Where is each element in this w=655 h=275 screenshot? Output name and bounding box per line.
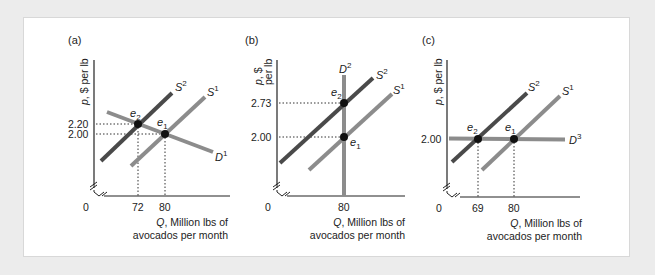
panel-a-e1-label: e1	[157, 116, 168, 131]
panel-b-x-axis-label-line2: avocados per month	[310, 229, 405, 241]
panel-c-s2-label: S2	[528, 79, 540, 93]
panel-c-equilibrium-e1	[510, 135, 518, 143]
panel-b-equilibrium-e1	[340, 133, 348, 141]
panel-c: (c) p, $ per lb e2 e1 S2 S1 D3 2.00 0 69…	[421, 34, 582, 242]
panel-c-equilibrium-e2	[474, 135, 482, 143]
panel-c-e2-label: e2	[467, 121, 478, 136]
panel-c-y-tick-2-00: 2.00	[421, 133, 442, 145]
panel-b-x-axis-label-line1: Q, Million lbs of	[333, 216, 405, 228]
panel-a-y-axis-label: pp, $ per lb, $ per lb	[78, 58, 90, 106]
panel-b-s2-label: S2	[376, 67, 388, 81]
panel-c-label: (c)	[422, 34, 435, 46]
panel-c-demand-curve	[449, 139, 565, 140]
panel-b-y-tick-2-00: 2.00	[251, 131, 272, 143]
panel-a-s1-label: S1	[207, 84, 219, 98]
panel-b-s1-label: S1	[393, 82, 405, 96]
panel-a-x-tick-72: 72	[132, 201, 144, 213]
panel-c-supply-s2-curve	[452, 93, 527, 162]
panel-a-x-axis-label-line2: avocados per month	[133, 229, 228, 241]
panel-a: (a) pp, $ per lb, $ per lb e2 e1 S2 S1 D…	[68, 34, 230, 241]
panel-a-s2-label: S2	[175, 79, 187, 93]
panel-c-x-tick-80: 80	[508, 202, 520, 214]
panel-b-e1-label: e1	[350, 136, 361, 151]
panel-a-d1-label: D1	[215, 149, 228, 163]
panel-b-supply-s1-curve	[309, 94, 392, 170]
panel-b-y-axis-label-line2: per lb	[262, 59, 274, 85]
panel-b-e2-label: e2	[331, 86, 342, 101]
panel-b-origin-label: 0	[265, 201, 271, 213]
panel-a-y-tick-2-00: 2.00	[68, 128, 89, 140]
panel-c-supply-s1-curve	[482, 96, 560, 170]
panel-a-equilibrium-e1	[161, 130, 169, 138]
panel-c-x-axis-label-line2: avocados per month	[487, 230, 582, 242]
panel-c-origin-label: 0	[436, 202, 442, 214]
panel-c-y-axis-label: p, $ per lb	[432, 58, 444, 106]
panel-b-label: (b)	[245, 34, 258, 46]
panel-b-d2-label: D2	[339, 61, 352, 75]
panel-b-x-tick-80: 80	[338, 201, 350, 213]
panel-c-x-axis-label-line1: Q, Million lbs of	[510, 217, 582, 229]
panel-a-x-tick-80: 80	[159, 201, 171, 213]
supply-demand-figure: (a) pp, $ per lb, $ per lb e2 e1 S2 S1 D…	[0, 0, 655, 275]
panel-a-label: (a)	[68, 34, 81, 46]
panel-c-d3-label: D3	[569, 132, 582, 146]
panel-a-x-axis-label-line1: Q, Million lbs of	[156, 216, 228, 228]
panel-c-axis-break-x-icon	[452, 193, 460, 197]
panel-b-axis-break-icon	[273, 182, 282, 196]
panel-a-origin-label: 0	[83, 201, 89, 213]
panel-b-y-tick-2-73: 2.73	[251, 97, 272, 109]
panel-c-axis-break-icon	[443, 183, 452, 197]
panel-c-x-tick-69: 69	[472, 202, 484, 214]
panel-c-s1-label: S1	[562, 83, 574, 97]
panel-b: (b) p, $ per lb e2 e1 D2 S2 S1 2.73 2.00…	[245, 34, 405, 241]
panel-a-axis-break-icon	[90, 182, 99, 196]
panel-c-e1-label: e1	[505, 121, 516, 136]
